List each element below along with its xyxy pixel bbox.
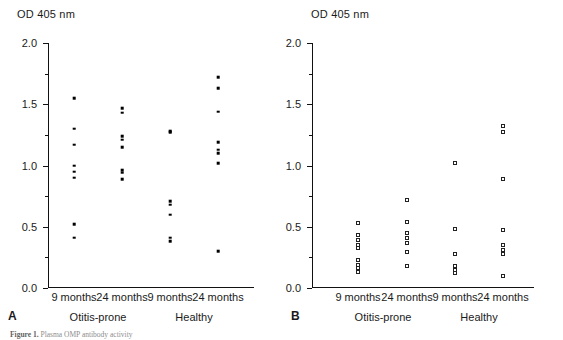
data-point — [405, 220, 409, 224]
data-point — [73, 236, 76, 239]
data-point — [73, 164, 76, 167]
y-tick-minor — [309, 196, 312, 197]
data-point — [121, 135, 124, 138]
x-tick-label: 9 months — [51, 291, 96, 303]
data-point — [405, 241, 409, 245]
data-point — [73, 143, 76, 146]
y-tick-minor — [45, 196, 48, 197]
data-point — [169, 203, 172, 206]
data-point — [73, 223, 76, 226]
data-point — [453, 227, 457, 231]
group-label: Otitis-prone — [70, 311, 127, 323]
figure-caption: Figure 1. Plasma OMP antibody activity — [10, 330, 558, 339]
y-tick-minor — [309, 135, 312, 136]
y-tick-minor — [45, 74, 48, 75]
group-label: Healthy — [460, 311, 497, 323]
data-point — [121, 107, 124, 110]
data-point — [73, 97, 76, 100]
data-point — [356, 246, 360, 250]
y-tick-label: 1.0 — [286, 160, 301, 172]
panel-b: OD 405 nm 0.00.51.01.52.0 9 months24 mon… — [282, 0, 563, 340]
data-point — [501, 274, 505, 278]
x-tick-label: 24 months — [192, 291, 243, 303]
caption-text: Plasma OMP antibody activity — [40, 330, 132, 339]
y-tick-major: 1.0 — [307, 166, 312, 167]
data-point — [169, 213, 172, 216]
x-axis-line — [312, 287, 534, 288]
data-point — [501, 130, 505, 134]
data-point — [217, 110, 220, 113]
x-tick-label: 24 months — [96, 291, 147, 303]
y-tick-label: 1.0 — [22, 160, 37, 172]
y-tick-major: 0.5 — [307, 227, 312, 228]
y-axis-title: OD 405 nm — [17, 8, 75, 20]
data-point — [217, 87, 220, 90]
data-point — [121, 146, 124, 149]
data-point — [356, 221, 360, 225]
y-tick-minor — [309, 74, 312, 75]
data-point — [169, 200, 172, 203]
group-label: Healthy — [175, 311, 212, 323]
caption-prefix: Figure 1. — [10, 330, 39, 339]
y-tick-label: 2.0 — [22, 37, 37, 49]
data-point — [501, 124, 505, 128]
data-point — [217, 152, 220, 155]
data-point — [217, 141, 220, 144]
data-point — [217, 250, 220, 253]
data-point — [73, 127, 76, 130]
data-point — [356, 233, 360, 237]
plot-area-a: 0.00.51.01.52.0 — [48, 43, 254, 288]
y-tick-major: 1.5 — [43, 104, 48, 105]
data-point — [405, 250, 409, 254]
y-tick-minor — [309, 257, 312, 258]
data-point — [169, 236, 172, 239]
data-point — [169, 131, 172, 134]
data-point — [405, 236, 409, 240]
y-tick-label: 2.0 — [286, 37, 301, 49]
data-point — [121, 112, 124, 115]
y-tick-minor — [45, 135, 48, 136]
y-tick-major: 0.0 — [43, 288, 48, 289]
x-tick-label: 9 months — [147, 291, 192, 303]
data-point — [453, 252, 457, 256]
y-tick-major: 0.5 — [43, 227, 48, 228]
data-point — [121, 178, 124, 181]
y-tick-major: 2.0 — [43, 43, 48, 44]
group-labels-b: Otitis-proneHealthy — [282, 311, 563, 327]
x-axis-line — [48, 287, 254, 288]
data-point — [405, 264, 409, 268]
x-tick-label: 9 months — [432, 291, 477, 303]
panel-a: OD 405 nm 0.00.51.01.52.0 9 months24 mon… — [0, 0, 281, 340]
data-point — [405, 198, 409, 202]
y-tick-major: 2.0 — [307, 43, 312, 44]
x-tick-labels-b: 9 months24 months9 months24 months — [282, 291, 563, 307]
data-point — [501, 177, 505, 181]
data-point — [356, 258, 360, 262]
x-tick-labels-a: 9 months24 months9 months24 months — [0, 291, 281, 307]
plot-area-b: 0.00.51.01.52.0 — [312, 43, 534, 288]
data-point — [217, 162, 220, 165]
data-point — [501, 228, 505, 232]
data-point — [73, 176, 76, 179]
y-axis-title: OD 405 nm — [311, 8, 369, 20]
panel-letter-b: B — [291, 309, 300, 323]
y-tick-label: 0.5 — [286, 221, 301, 233]
data-point — [217, 148, 220, 151]
data-point — [121, 138, 124, 141]
data-point — [501, 252, 505, 256]
panel-letter-a: A — [8, 309, 17, 323]
y-tick-major: 1.0 — [43, 166, 48, 167]
data-point — [356, 238, 360, 242]
figure-container: OD 405 nm 0.00.51.01.52.0 9 months24 mon… — [0, 0, 563, 340]
data-point — [121, 172, 124, 175]
data-point — [169, 240, 172, 243]
data-point — [356, 270, 360, 274]
data-point — [405, 231, 409, 235]
data-point — [73, 170, 76, 173]
data-point — [453, 161, 457, 165]
data-point — [453, 271, 457, 275]
group-labels-a: Otitis-proneHealthy — [0, 311, 281, 327]
group-label: Otitis-prone — [355, 311, 412, 323]
data-point — [217, 76, 220, 79]
y-tick-major: 1.5 — [307, 104, 312, 105]
